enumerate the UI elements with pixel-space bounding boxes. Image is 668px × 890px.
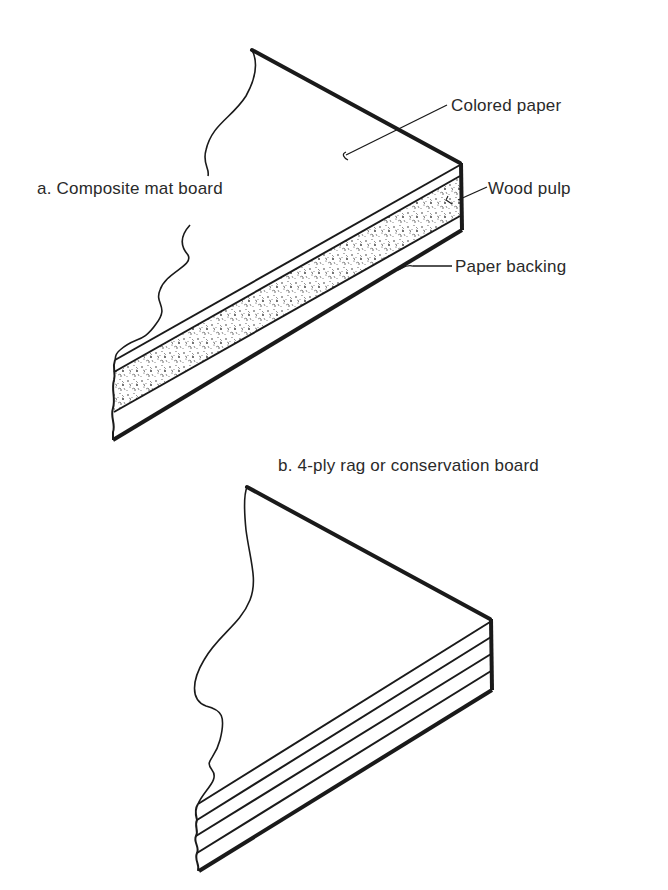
label-wood-pulp: Wood pulp [488,180,571,197]
wood-pulp-layer [114,176,460,412]
label-paper-backing: Paper backing [455,258,566,275]
composite-board-illustration [0,0,668,890]
mat-board-diagram: Colored paper Wood pulp Paper backing a.… [0,0,668,890]
panel-a-title: a. Composite mat board [37,180,223,197]
panel-b-title: b. 4-ply rag or conservation board [278,457,539,474]
panel-a-board [112,50,487,440]
panel-b-board [195,487,493,871]
label-colored-paper: Colored paper [451,97,561,114]
